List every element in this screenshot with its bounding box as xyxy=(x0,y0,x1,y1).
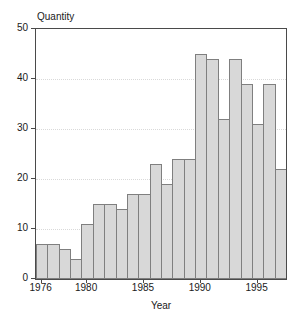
x-axis-title: Year xyxy=(35,300,287,311)
plot-area xyxy=(35,28,287,280)
x-tick-label: 1976 xyxy=(24,283,58,293)
y-tick-mark xyxy=(31,278,35,279)
y-tick-mark xyxy=(31,28,35,29)
y-tick-label: 20 xyxy=(2,173,28,183)
x-tick-mark xyxy=(143,279,144,283)
y-tick-label: 50 xyxy=(2,23,28,33)
x-tick-label: 1980 xyxy=(69,283,103,293)
y-tick-mark xyxy=(31,78,35,79)
x-tick-label: 1985 xyxy=(126,283,160,293)
y-tick-label: 40 xyxy=(2,73,28,83)
gridline xyxy=(36,79,286,80)
y-axis-title: Quantity xyxy=(37,11,74,22)
bar-chart: Quantity 01020304050 1976198019851990199… xyxy=(0,0,293,324)
y-tick-label: 0 xyxy=(2,273,28,283)
y-tick-label: 10 xyxy=(2,223,28,233)
x-tick-label: 1995 xyxy=(240,283,274,293)
bar-1997 xyxy=(275,169,287,279)
x-tick-label: 1990 xyxy=(183,283,217,293)
y-tick-mark xyxy=(31,228,35,229)
x-tick-mark xyxy=(86,279,87,283)
y-tick-label: 30 xyxy=(2,123,28,133)
x-tick-mark xyxy=(200,279,201,283)
x-tick-mark xyxy=(257,279,258,283)
y-tick-mark xyxy=(31,128,35,129)
y-tick-mark xyxy=(31,178,35,179)
x-tick-mark xyxy=(41,279,42,283)
